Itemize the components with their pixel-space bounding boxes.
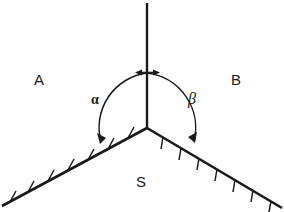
region-label-b: B [231,71,242,88]
region-label-a: A [34,71,45,88]
right-fault-tick [251,190,253,202]
alpha-arc-arrowhead-icon [97,133,106,144]
right-fault-tick [215,169,217,181]
angle-label-beta: β [188,90,196,108]
angle-label-alpha: α [91,92,99,108]
region-label-s: S [136,173,147,190]
left-fault-tick-group [10,127,134,202]
right-fault-tick [233,180,235,192]
beta-arc-arrowhead-icon [188,132,197,143]
right-fault-tick [179,148,181,160]
right-fault-tick [161,137,163,149]
right-fault-boundary-line [147,128,282,208]
diagram-canvas: A B S α β [0,0,284,212]
right-fault-tick [269,201,271,212]
left-fault-boundary-line [2,128,147,206]
right-fault-tick [197,158,199,170]
right-fault-tick-group [161,137,271,212]
